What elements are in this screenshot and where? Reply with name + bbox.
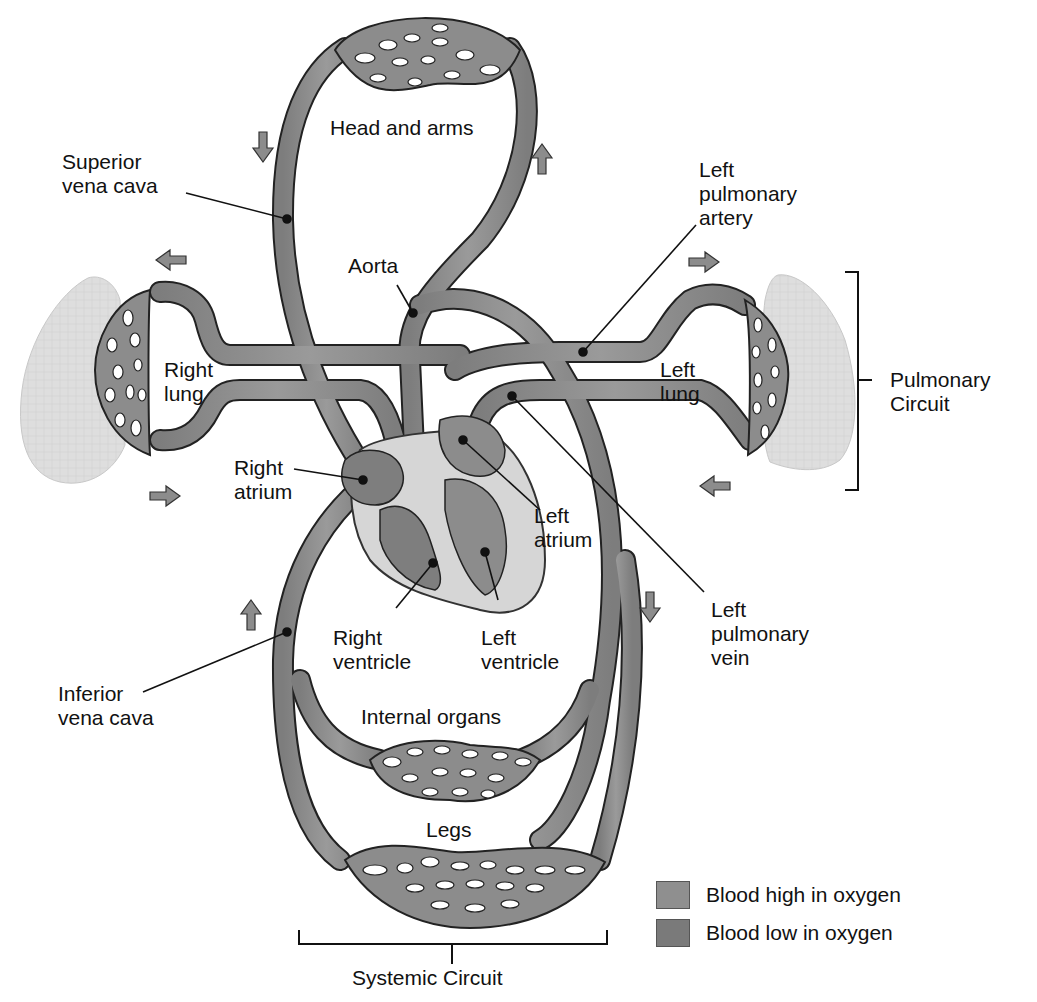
label-left-lung: Left lung — [660, 358, 700, 406]
label-inferior-vena-cava: Inferior vena cava — [58, 682, 154, 730]
heart — [342, 416, 545, 612]
label-right-ventricle: Right ventricle — [333, 626, 411, 674]
label-right-atrium: Right atrium — [234, 456, 292, 504]
left-arrow-icon — [700, 476, 730, 496]
label-systemic-circuit: Systemic Circuit — [352, 966, 503, 990]
label-right-lung: Right lung — [164, 358, 213, 406]
capillary-bed-legs — [345, 846, 605, 928]
up-arrow-icon — [532, 144, 552, 174]
legend-item-low-oxygen: Blood low in oxygen — [656, 916, 901, 950]
label-legs: Legs — [426, 818, 472, 842]
label-internal-organs: Internal organs — [361, 705, 501, 729]
legend-label: Blood low in oxygen — [706, 921, 893, 945]
capillary-bed-head — [335, 18, 520, 90]
swatch-low-oxygen — [656, 919, 690, 947]
right-arrow-icon — [150, 486, 180, 506]
label-aorta: Aorta — [348, 254, 398, 278]
legend: Blood high in oxygen Blood low in oxygen — [656, 878, 901, 954]
right-arrow-icon — [689, 252, 719, 272]
legend-item-high-oxygen: Blood high in oxygen — [656, 878, 901, 912]
capillary-bed-internal-organs — [370, 741, 540, 801]
label-superior-vena-cava: Superior vena cava — [62, 150, 158, 198]
left-arrow-icon — [156, 250, 186, 270]
swatch-high-oxygen — [656, 881, 690, 909]
label-head-and-arms: Head and arms — [330, 116, 474, 140]
label-left-ventricle: Left ventricle — [481, 626, 559, 674]
label-left-pulmonary-artery: Left pulmonary artery — [699, 158, 797, 230]
up-arrow-icon — [241, 600, 261, 630]
label-left-atrium: Left atrium — [534, 504, 592, 552]
down-arrow-icon — [640, 592, 660, 622]
systemic-circuit-bracket — [299, 930, 607, 964]
legend-label: Blood high in oxygen — [706, 883, 901, 907]
down-arrow-icon — [253, 132, 273, 162]
label-pulmonary-circuit: Pulmonary Circuit — [890, 368, 990, 416]
label-left-pulmonary-vein: Left pulmonary vein — [711, 598, 809, 670]
